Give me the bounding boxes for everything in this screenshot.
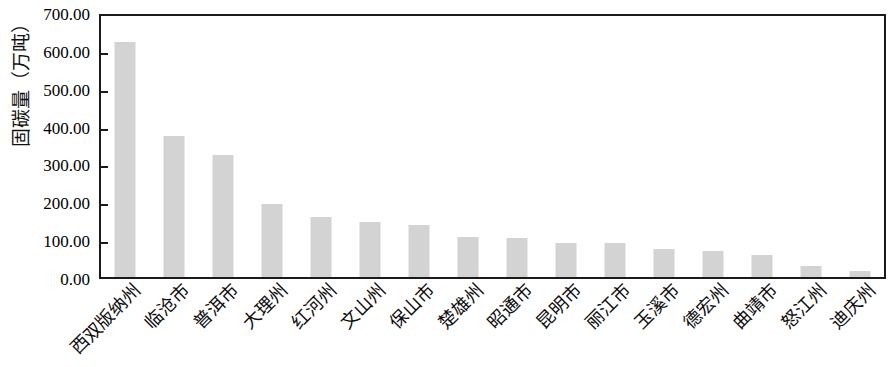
bar-slot <box>493 14 542 277</box>
y-axis-tick-label: 300.00 <box>28 157 90 174</box>
bar-slot <box>541 14 590 277</box>
y-axis-tick-label: 700.00 <box>28 6 90 23</box>
y-axis-tick-label: 600.00 <box>28 44 90 61</box>
y-axis-tick-label: 0.00 <box>28 271 90 288</box>
bar-slot <box>688 14 737 277</box>
y-axis-tick-labels: 0.00100.00200.00300.00400.00500.00600.00… <box>28 0 90 290</box>
bar-slot <box>835 14 884 277</box>
bar-slot <box>346 14 395 277</box>
bars-container <box>101 14 884 277</box>
y-axis-tick-label: 100.00 <box>28 233 90 250</box>
x-axis-tick-label-text: 西双版纳州 <box>68 281 145 358</box>
bar-slot <box>101 14 150 277</box>
bar-slot <box>737 14 786 277</box>
x-axis-tick-labels: 西双版纳州临沧市普洱市大理州红河州文山州保山市楚雄州昭通市昆明市丽江市玉溪市德宏… <box>101 281 884 367</box>
y-axis-tick-label: 500.00 <box>28 82 90 99</box>
bar-slot <box>639 14 688 277</box>
y-axis-tick-label: 400.00 <box>28 120 90 137</box>
bar-slot <box>248 14 297 277</box>
bar-slot <box>786 14 835 277</box>
bar-slot <box>590 14 639 277</box>
bar-slot <box>395 14 444 277</box>
bar[interactable] <box>115 42 136 277</box>
bar-slot <box>444 14 493 277</box>
bar-slot <box>297 14 346 277</box>
y-axis-tick-label: 200.00 <box>28 195 90 212</box>
bar-chart: 固碳量（万吨） 0.00100.00200.00300.00400.00500.… <box>0 0 891 367</box>
bar-slot <box>199 14 248 277</box>
